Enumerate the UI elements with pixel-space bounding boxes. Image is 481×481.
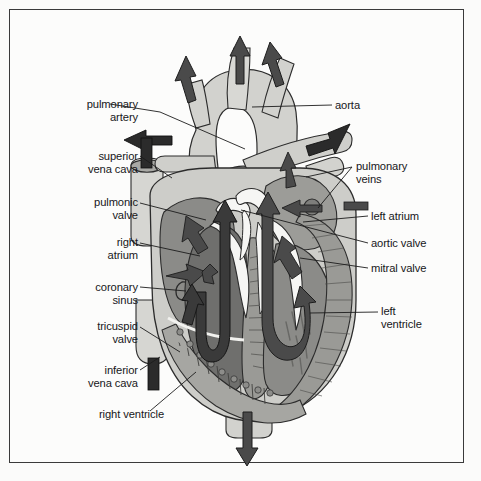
label-aortic-valve: aortic valve: [371, 237, 471, 250]
label-mitral-valve: mitral valve: [371, 262, 471, 275]
label-pulmonic-valve: pulmonic valve: [38, 196, 138, 222]
label-superior-vena-cava: superior vena cava: [22, 150, 138, 176]
label-inferior-vena-cava: inferior vena cava: [22, 364, 138, 390]
label-tricuspid-valve: tricuspid valve: [38, 320, 138, 346]
label-left-ventricle: left ventricle: [381, 305, 471, 331]
figure-page: pulmonary arterysuperior vena cavapulmon…: [0, 0, 481, 481]
label-left-atrium: left atrium: [371, 210, 471, 223]
label-aorta: aorta: [335, 99, 435, 112]
label-right-ventricle: right ventricle: [44, 408, 164, 421]
arrow-pulmonary-vein-stub-flow: [344, 202, 368, 210]
arrow-aorta-branch-3-out: [175, 56, 196, 103]
label-pulmonary-veins: pulmonary veins: [356, 160, 466, 186]
label-coronary-sinus: coronary sinus: [38, 281, 138, 307]
label-pulmonary-artery: pulmonary artery: [38, 98, 138, 124]
arrow-inferior-vena-cava-in: [148, 358, 159, 390]
label-right-atrium: right atrium: [48, 236, 138, 262]
